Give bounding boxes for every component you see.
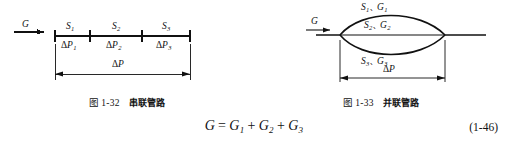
inlet-flow-label: G <box>311 17 318 27</box>
equation-lhs: G <box>205 118 215 133</box>
document-page: G S1 ΔP1 S2 ΔP2 S3 ΔP3 ΔP 图 1-32串联管路 <box>0 0 508 147</box>
dim-arrow-right <box>437 75 445 80</box>
equation-equals: = <box>215 118 229 133</box>
equation-plus-2: + <box>274 118 288 133</box>
parallel-pipe-drawing <box>254 0 508 92</box>
branch-1-label: S1、G1 <box>361 3 387 13</box>
branch-1-curve <box>340 16 445 36</box>
equation-expression: G=G1+G2+G3 <box>0 118 508 134</box>
equation-plus-1: + <box>244 118 258 133</box>
segment-3-bottom-label: ΔP3 <box>156 41 171 51</box>
equation-term-3: G3 <box>288 118 303 133</box>
branch-3-curve <box>340 35 445 55</box>
segment-1-bottom-label: ΔP1 <box>61 41 76 51</box>
total-pressure-drop-label: ΔP <box>383 65 395 75</box>
inlet-arrow-head <box>37 29 44 34</box>
equation-term-1: G1 <box>229 118 244 133</box>
total-pressure-drop-label: ΔP <box>112 60 124 70</box>
figure-series-pipe: G S1 ΔP1 S2 ΔP2 S3 ΔP3 ΔP 图 1-32串联管路 <box>0 0 254 112</box>
segment-2-top-label: S2 <box>112 22 120 32</box>
figure-caption-parallel: 图 1-33并联管路 <box>254 95 508 109</box>
branch-2-label: S2、G2 <box>364 21 390 31</box>
segment-1-top-label: S1 <box>66 22 74 32</box>
equation-row: G=G1+G2+G3 (1-46) <box>0 112 508 147</box>
equation-number: (1-46) <box>469 121 498 133</box>
figure-caption-title: 并联管路 <box>383 98 420 108</box>
segment-2-bottom-label: ΔP2 <box>106 41 121 51</box>
segment-3-top-label: S3 <box>162 22 170 32</box>
figure-caption-title: 串联管路 <box>129 98 166 108</box>
figure-caption-series: 图 1-32串联管路 <box>0 95 254 109</box>
figure-caption-number: 图 1-33 <box>343 98 374 108</box>
figure-caption-number: 图 1-32 <box>89 98 120 108</box>
equation-term-2: G2 <box>259 118 274 133</box>
figure-parallel-pipe: G S1、G1 S2、G2 S3、G3 ΔP 图 1-33并联管路 <box>254 0 508 112</box>
dim-arrow-left <box>340 75 348 80</box>
series-pipe-drawing <box>0 0 254 92</box>
inlet-flow-label: G <box>22 20 29 30</box>
dim-arrow-left <box>55 71 63 76</box>
dim-arrow-right <box>182 71 190 76</box>
inlet-arrow-head <box>323 27 330 32</box>
